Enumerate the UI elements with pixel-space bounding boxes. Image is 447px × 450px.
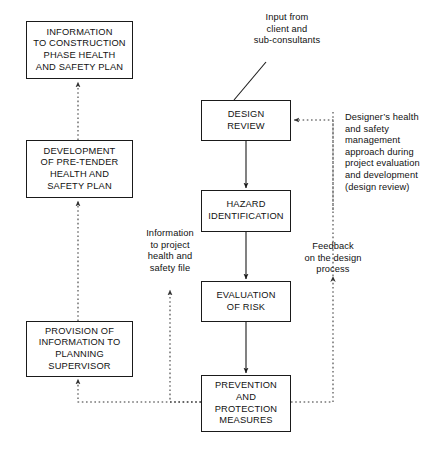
- annotation-input-from-client: Input from client and sub-consultants: [232, 12, 342, 47]
- flowchart-diagram: INFORMATION TO CONSTRUCTION PHASE HEALTH…: [0, 0, 447, 450]
- node-evaluation-of-risk[interactable]: EVALUATION OF RISK: [201, 281, 291, 322]
- node-design-review[interactable]: DESIGN REVIEW: [201, 100, 291, 141]
- node-hazard-identification[interactable]: HAZARD IDENTIFICATION: [201, 190, 291, 232]
- edge-prevention-to-provision: [78, 379, 201, 402]
- node-development-of-pre-tender-plan[interactable]: DEVELOPMENT OF PRE-TENDER HEALTH AND SAF…: [26, 140, 133, 198]
- edge-prevention-to-project-file: [170, 290, 201, 402]
- node-information-to-construction-phase-plan[interactable]: INFORMATION TO CONSTRUCTION PHASE HEALTH…: [26, 21, 133, 79]
- node-provision-of-information-to-planning-supervisor[interactable]: PROVISION OF INFORMATION TO PLANNING SUP…: [26, 321, 133, 377]
- annotation-designers-health-and-safety-management: Designer’s health and safety management …: [345, 112, 445, 193]
- annotation-feedback-on-the-design-process: Feedback on the design process: [290, 241, 376, 276]
- annotation-information-to-project-health-and-safety-file: Information to project health and safety…: [129, 228, 211, 274]
- feedback-midpoint-arrowhead: [330, 276, 335, 282]
- node-prevention-and-protection-measures[interactable]: PREVENTION AND PROTECTION MEASURES: [201, 375, 291, 432]
- edge-input-leader-line: [234, 62, 266, 100]
